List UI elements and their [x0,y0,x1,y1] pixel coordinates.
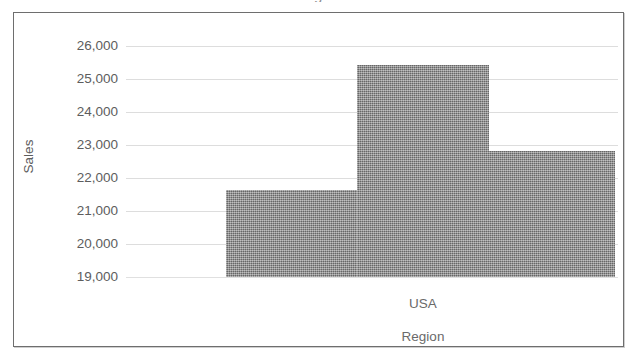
y-axis-tick-label-26000: 26,000 [26,39,118,53]
y-axis-tick-label-23000: 23,000 [26,138,118,152]
gridline-19000-baseline [126,277,618,278]
y-axis-title: Sales [21,127,36,187]
y-axis-tick-label-24000: 24,000 [26,105,118,119]
y-axis-tick-label-20000: 20,000 [26,237,118,251]
x-axis-title: Region [357,329,489,344]
y-axis-tick-label-21000: 21,000 [26,204,118,218]
y-axis-tick-label-25000: 25,000 [26,72,118,86]
y-axis-tick-label-22000: 22,000 [26,171,118,185]
y-axis-tick-label-19000: 19,000 [26,270,118,284]
bar-series-sales-2[interactable] [489,151,615,277]
bar-series-sales-0[interactable] [226,190,357,277]
bar-series-sales-1[interactable] [357,65,489,277]
truncated-title-glyph: g [0,0,637,2]
chart-frame: 26,000 25,000 24,000 23,000 22,000 21,00… [13,12,624,347]
chart-screenshot: g 26,000 25,000 24,000 [0,0,637,356]
gridline-26000 [126,46,618,47]
plot-area: 26,000 25,000 24,000 23,000 22,000 21,00… [14,13,625,348]
x-axis-tick-label-usa: USA [357,296,489,311]
